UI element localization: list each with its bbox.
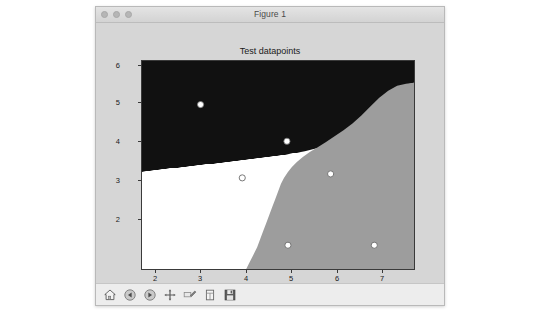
x-tick-label: 2 xyxy=(145,274,165,283)
y-tick-label: 3 xyxy=(95,176,120,185)
forward-arrow-icon xyxy=(143,288,157,302)
desktop-background: Figure 1 Test datapoints xyxy=(0,0,534,311)
y-tick-label: 6 xyxy=(95,61,120,70)
y-tick-mark xyxy=(138,65,141,66)
x-tick-mark xyxy=(291,270,292,273)
configure-subplots-button[interactable] xyxy=(200,286,219,305)
x-tick-label: 5 xyxy=(281,274,301,283)
figure-canvas: Test datapoints xyxy=(96,23,444,283)
y-tick-mark xyxy=(138,219,141,220)
zoom-button[interactable] xyxy=(180,286,199,305)
back-arrow-icon xyxy=(123,288,137,302)
figure-window: Figure 1 Test datapoints xyxy=(95,6,445,306)
x-tick-mark xyxy=(382,270,383,273)
data-point xyxy=(239,175,245,181)
y-tick-label: 2 xyxy=(95,215,120,224)
x-tick-label: 6 xyxy=(327,274,347,283)
window-title: Figure 1 xyxy=(96,9,444,19)
y-tick-mark xyxy=(138,102,141,103)
x-tick-label: 7 xyxy=(372,274,392,283)
plot-axes[interactable] xyxy=(141,60,415,270)
data-point xyxy=(284,138,290,144)
data-point xyxy=(328,171,334,177)
back-button[interactable] xyxy=(120,286,139,305)
home-icon xyxy=(103,288,117,302)
pan-icon xyxy=(163,288,177,302)
x-tick-mark xyxy=(337,270,338,273)
save-icon xyxy=(223,288,237,302)
zoom-icon xyxy=(183,288,197,302)
pan-button[interactable] xyxy=(160,286,179,305)
y-tick-mark xyxy=(138,180,141,181)
data-point xyxy=(197,102,203,108)
x-tick-mark xyxy=(155,270,156,273)
y-tick-label: 4 xyxy=(95,137,120,146)
data-points-layer xyxy=(142,61,414,269)
x-tick-label: 4 xyxy=(236,274,256,283)
data-point xyxy=(285,242,291,248)
x-tick-label: 3 xyxy=(190,274,210,283)
y-tick-mark xyxy=(138,141,141,142)
x-tick-mark xyxy=(200,270,201,273)
save-button[interactable] xyxy=(220,286,239,305)
home-button[interactable] xyxy=(100,286,119,305)
plot-title: Test datapoints xyxy=(96,46,444,56)
configure-subplots-icon xyxy=(203,288,217,302)
data-point xyxy=(371,242,377,248)
window-titlebar[interactable]: Figure 1 xyxy=(96,7,444,23)
forward-button[interactable] xyxy=(140,286,159,305)
y-tick-label: 5 xyxy=(95,98,120,107)
matplotlib-toolbar xyxy=(96,283,444,306)
x-tick-mark xyxy=(246,270,247,273)
